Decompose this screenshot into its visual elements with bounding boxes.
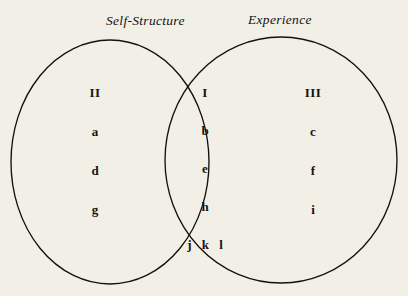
region-center-item-e: e [202,162,208,175]
region-left-only: II a d g [62,86,128,242]
region-right-item-f: f [311,164,315,177]
region-right-item-c: c [310,125,316,138]
region-right-only: III c f i [282,86,344,242]
region-left-item-g: g [92,203,99,216]
region-left-roman: II [89,86,100,99]
label-self-structure: Self-Structure [106,13,185,29]
region-left-item-a: a [92,125,99,138]
region-center-item-h: h [201,200,208,213]
region-right-item-i: i [311,203,315,216]
region-left-item-d: d [91,164,98,177]
region-right-roman: III [305,86,322,99]
region-center-item-jkl: j k l [184,238,227,251]
venn-diagram-canvas: Self-Structure Experience II a d g I b e… [0,0,408,296]
region-intersection: I b e h j k l [174,86,236,276]
region-center-item-b: b [201,124,208,137]
region-center-roman: I [202,86,208,99]
label-experience: Experience [248,12,312,28]
